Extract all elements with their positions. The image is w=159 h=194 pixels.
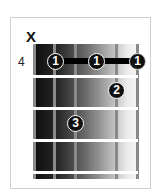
string-3 — [74, 44, 77, 179]
finger-dot: 1 — [47, 53, 64, 70]
string-5 — [115, 44, 118, 179]
fret-line-3 — [33, 139, 138, 142]
finger-dot: 3 — [67, 115, 84, 132]
fret-line-4 — [33, 171, 138, 174]
finger-dot: 1 — [88, 53, 105, 70]
finger-dot: 2 — [108, 82, 125, 99]
fret-line-2 — [33, 107, 138, 110]
start-fret-number: 4 — [18, 55, 25, 69]
string-1 — [33, 44, 36, 179]
muted-string-marker: X — [26, 31, 36, 43]
fret-line-1 — [33, 75, 138, 78]
finger-dot: 1 — [129, 53, 146, 70]
